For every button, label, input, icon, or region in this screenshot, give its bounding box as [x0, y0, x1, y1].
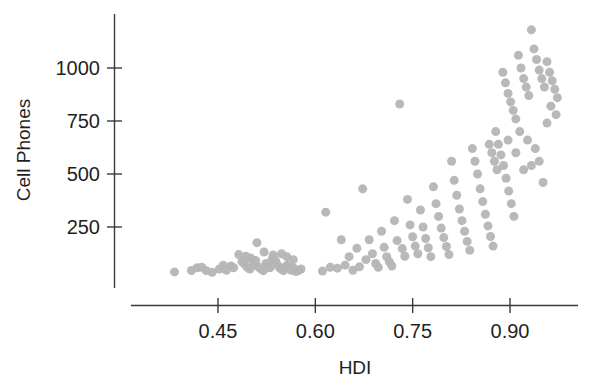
x-tick-label: 0.60 — [296, 320, 335, 342]
data-point — [530, 44, 539, 53]
data-point — [447, 157, 456, 166]
data-point — [352, 244, 361, 253]
data-point — [550, 85, 559, 94]
data-point — [380, 243, 389, 252]
data-point — [368, 249, 377, 258]
y-tick-label: 250 — [67, 216, 100, 238]
x-tick-label: 0.90 — [491, 320, 530, 342]
data-point — [522, 83, 531, 92]
data-point — [170, 267, 179, 276]
data-point — [439, 233, 448, 242]
data-point — [542, 119, 551, 128]
data-point — [358, 184, 367, 193]
data-point — [511, 114, 520, 123]
data-point — [481, 210, 490, 219]
data-point — [345, 252, 354, 261]
data-point — [434, 212, 443, 221]
data-point — [548, 76, 557, 85]
y-tick-label: 1000 — [56, 57, 101, 79]
data-point — [426, 252, 435, 261]
data-point — [537, 74, 546, 83]
data-point — [489, 242, 498, 251]
data-point — [460, 227, 469, 236]
data-point — [377, 227, 386, 236]
data-point — [398, 244, 407, 253]
data-point — [452, 191, 461, 200]
data-point — [546, 102, 555, 111]
data-point — [515, 127, 524, 136]
data-point — [297, 264, 306, 273]
data-point — [523, 136, 532, 145]
data-point — [486, 232, 495, 241]
data-point — [403, 195, 412, 204]
data-point — [289, 255, 298, 264]
data-point — [260, 248, 269, 257]
data-point — [457, 216, 466, 225]
data-point — [504, 186, 513, 195]
scatter-chart: 2505007501000 0.450.600.750.90 HDI Cell … — [0, 0, 592, 389]
data-point — [490, 157, 499, 166]
plot-svg: 2505007501000 0.450.600.750.90 HDI Cell … — [0, 0, 592, 389]
data-point — [519, 74, 528, 83]
data-point — [333, 264, 342, 273]
data-point — [485, 140, 494, 149]
data-point — [269, 250, 278, 259]
data-point — [519, 165, 528, 174]
data-point — [400, 252, 409, 261]
data-point — [341, 261, 350, 270]
data-point — [501, 78, 510, 87]
data-point — [229, 263, 238, 272]
data-point — [432, 199, 441, 208]
data-point — [318, 267, 327, 276]
data-point — [542, 57, 551, 66]
data-point — [514, 51, 523, 60]
data-point — [408, 232, 417, 241]
data-point — [553, 93, 562, 102]
data-point — [406, 220, 415, 229]
data-point — [502, 174, 511, 183]
data-point — [411, 242, 420, 251]
data-point — [531, 144, 540, 153]
data-point — [442, 242, 451, 251]
data-point — [507, 199, 516, 208]
data-point — [387, 262, 396, 271]
x-axis-title: HDI — [339, 357, 372, 378]
data-point — [437, 224, 446, 233]
data-point — [355, 262, 364, 271]
y-axis-ticks: 2505007501000 — [56, 57, 123, 238]
data-point — [511, 148, 520, 157]
data-point — [496, 150, 505, 159]
data-point — [450, 176, 459, 185]
data-point — [504, 136, 513, 145]
data-point — [527, 161, 536, 170]
data-point — [470, 157, 479, 166]
data-point — [476, 184, 485, 193]
data-point — [506, 97, 515, 106]
x-tick-label: 0.45 — [199, 320, 238, 342]
data-point — [365, 235, 374, 244]
data-point — [395, 100, 404, 109]
data-point — [419, 223, 428, 232]
data-point — [535, 157, 544, 166]
data-point — [251, 256, 260, 265]
data-point — [478, 197, 487, 206]
y-axis-title: Cell Phones — [13, 99, 34, 201]
data-point — [509, 106, 518, 115]
data-point — [416, 206, 425, 215]
data-point — [494, 140, 503, 149]
data-point — [468, 144, 477, 153]
data-point — [393, 236, 402, 245]
data-point — [483, 221, 492, 230]
data-point — [241, 252, 250, 261]
data-point — [487, 148, 496, 157]
x-tick-label: 0.75 — [393, 320, 432, 342]
data-point — [540, 83, 549, 92]
data-point — [445, 250, 454, 259]
data-point — [532, 55, 541, 64]
data-point — [524, 91, 533, 100]
data-point — [374, 263, 383, 272]
data-point — [535, 66, 544, 75]
data-point — [493, 165, 502, 174]
data-points-layer — [170, 25, 562, 277]
data-point — [473, 170, 482, 179]
